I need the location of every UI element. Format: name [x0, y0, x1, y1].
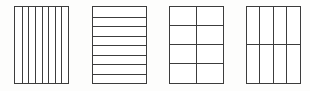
partition-cell	[260, 7, 273, 45]
partition-cell	[274, 45, 287, 83]
partition-cell	[260, 45, 273, 83]
rectangle-grid-2x4	[169, 6, 224, 84]
partition-cell	[93, 74, 146, 84]
partition-cell	[48, 7, 55, 83]
partition-cell	[197, 26, 224, 45]
partition-cell	[93, 64, 146, 74]
rectangle-horizontal-eighths	[92, 6, 147, 84]
partition-cell	[61, 7, 68, 83]
rectangle-vertical-eighths	[14, 6, 69, 84]
partition-cell	[93, 26, 146, 36]
partition-cell	[93, 45, 146, 55]
partition-cell	[35, 7, 42, 83]
partition-cell	[170, 64, 197, 83]
rectangle-grid-4x2	[246, 6, 301, 84]
partition-cell	[274, 7, 287, 45]
partition-cell	[197, 45, 224, 64]
partition-cell	[287, 45, 300, 83]
partition-cell	[93, 17, 146, 27]
partition-cell	[28, 7, 35, 83]
partition-cell	[42, 7, 49, 83]
partition-cell	[197, 7, 224, 26]
partition-cell	[22, 7, 29, 83]
partition-cell	[287, 7, 300, 45]
partition-cell	[93, 55, 146, 65]
partition-cell	[55, 7, 62, 83]
partition-cell	[247, 7, 260, 45]
partition-cell	[15, 7, 22, 83]
partition-cell	[170, 26, 197, 45]
partition-cell	[170, 7, 197, 26]
partition-cell	[170, 45, 197, 64]
partition-cell	[247, 45, 260, 83]
partition-cell	[197, 64, 224, 83]
eighths-partition-figure	[0, 0, 310, 91]
partition-cell	[93, 36, 146, 46]
partition-cell	[93, 7, 146, 17]
